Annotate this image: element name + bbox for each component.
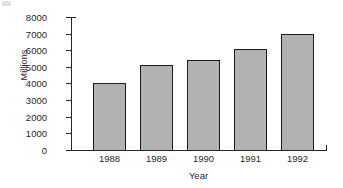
y-tick-5: [66, 67, 71, 68]
y-tick-2: [66, 117, 71, 118]
bar-1990: [187, 60, 220, 150]
bar-1992: [281, 34, 314, 150]
y-axis-top-cap: [71, 17, 76, 18]
x-tick-label-3: 1991: [228, 154, 273, 164]
bar-1989: [140, 65, 173, 150]
y-tick-label-4: 4000: [1, 79, 47, 89]
scan-artifact: [2, 1, 11, 6]
y-tick-label-5: 5000: [1, 63, 47, 73]
y-axis-line: [71, 17, 72, 151]
y-tick-label-2: 2000: [1, 113, 47, 123]
y-tick-6: [66, 50, 71, 51]
x-axis-line: [71, 150, 327, 151]
x-axis-title: Year: [71, 170, 326, 181]
bar-1988: [93, 83, 126, 150]
plot-area: 0 1000 2000 3000 4000 5000 6000 7000 800…: [71, 17, 326, 150]
x-tick-label-1: 1989: [134, 154, 179, 164]
bar-chart: Millions 0 1000 2000 3000 4000 5000 6000…: [0, 0, 343, 188]
y-tick-8: [66, 17, 71, 18]
x-axis-right-cap: [326, 145, 327, 151]
y-tick-label-8: 8000: [1, 13, 47, 23]
y-tick-label-1: 1000: [1, 129, 47, 139]
y-tick-7: [66, 34, 71, 35]
y-tick-4: [66, 83, 71, 84]
y-tick-label-3: 3000: [1, 96, 47, 106]
x-tick-label-0: 1988: [87, 154, 132, 164]
y-tick-1: [66, 133, 71, 134]
y-tick-3: [66, 100, 71, 101]
y-tick-label-0: 0: [1, 146, 47, 156]
x-tick-label-4: 1992: [275, 154, 320, 164]
x-tick-label-2: 1990: [181, 154, 226, 164]
y-tick-label-6: 6000: [1, 46, 47, 56]
bar-1991: [234, 49, 267, 150]
y-tick-label-7: 7000: [1, 30, 47, 40]
y-tick-0: [66, 150, 71, 151]
